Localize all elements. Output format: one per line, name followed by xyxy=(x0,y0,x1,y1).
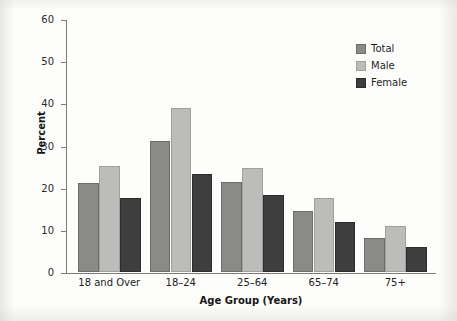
bar-total xyxy=(364,238,385,272)
bar-total xyxy=(293,211,314,272)
bar-female xyxy=(192,174,213,272)
legend-swatch-male xyxy=(356,61,366,71)
y-axis-tick: 40 xyxy=(61,104,66,105)
x-axis-category-label: 65–74 xyxy=(309,278,339,288)
bar-male xyxy=(99,166,120,272)
legend-swatch-total xyxy=(356,44,366,54)
y-axis-tick: 30 xyxy=(61,147,66,148)
bar-female xyxy=(406,247,427,272)
y-axis-tick-label: 60 xyxy=(41,15,54,25)
bar-total xyxy=(150,141,171,272)
legend-label: Male xyxy=(371,61,395,71)
bar-total xyxy=(221,182,242,272)
y-axis-tick: 60 xyxy=(61,20,66,21)
legend-item-female: Female xyxy=(356,75,407,90)
legend-swatch-female xyxy=(356,78,366,88)
bar-chart-figure: Percent 0102030405060 18 and Over18–2425… xyxy=(0,0,457,321)
x-axis-line xyxy=(66,273,436,274)
chart-legend: TotalMaleFemale xyxy=(356,41,407,92)
x-axis-title: Age Group (Years) xyxy=(66,296,436,306)
bar-female xyxy=(335,222,356,272)
bar-total xyxy=(78,183,99,272)
bar-male xyxy=(385,226,406,272)
bar-female xyxy=(263,195,284,272)
y-axis-tick: 10 xyxy=(61,231,66,232)
legend-item-total: Total xyxy=(356,41,407,56)
x-axis-category-label: 25–64 xyxy=(237,278,267,288)
y-axis-tick-label: 20 xyxy=(41,184,54,194)
bar-female xyxy=(120,198,141,272)
y-axis-tick-label: 50 xyxy=(41,57,54,67)
y-axis-tick-label: 40 xyxy=(41,99,54,109)
y-axis-tick: 20 xyxy=(61,189,66,190)
y-axis-tick-label: 30 xyxy=(41,142,54,152)
x-axis-category-label: 18–24 xyxy=(166,278,196,288)
legend-label: Female xyxy=(371,78,407,88)
y-axis-tick: 50 xyxy=(61,62,66,63)
y-axis-tick: 0 xyxy=(61,273,66,274)
legend-label: Total xyxy=(371,44,394,54)
x-axis-category-label: 18 and Over xyxy=(78,278,140,288)
bar-male xyxy=(314,198,335,272)
y-axis-tick-label: 0 xyxy=(48,268,54,278)
y-axis-line xyxy=(66,20,67,274)
bar-male xyxy=(171,108,192,272)
x-axis-category-label: 75+ xyxy=(385,278,406,288)
y-axis-tick-label: 10 xyxy=(41,226,54,236)
legend-item-male: Male xyxy=(356,58,407,73)
bar-male xyxy=(242,168,263,272)
